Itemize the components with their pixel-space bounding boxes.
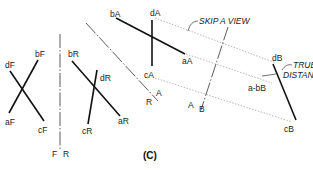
label-aA: aA [182,56,193,66]
label-bR: bR [68,49,79,59]
label-dA: dA [150,8,161,18]
label-fold-RA-R: R [146,97,152,107]
label-aR: aR [118,116,129,126]
descriptive-geometry-diagram: dF bF aF cF F R bR dR cR aR A R bA dA cA… [0,0,313,175]
projection-lines [155,18,292,122]
true-distance-dimension [262,74,276,76]
note-skip-a-view: SKIP A VIEW [199,16,251,26]
line-dR-cR [88,70,97,124]
label-cB: cB [284,124,294,134]
fold-line-AB: A B [188,27,228,114]
line-bR-aR [72,61,120,116]
auxiliary-view-A: bA dA cA aA [110,8,193,80]
annotations: SKIP A VIEW TRUE DISTANCE [188,16,313,80]
label-cR: cR [82,126,92,136]
label-fold-F: F [52,149,57,159]
right-view: bR dR cR aR [68,49,129,136]
label-bF: bF [35,49,45,59]
label-aF: aF [5,117,15,127]
skip-a-view-leader [188,21,198,31]
label-a-bB: a-bB [248,83,266,93]
fold-line-FR: F R [52,34,69,159]
label-fold-AB-A: A [188,100,194,110]
note-distance: DISTANCE [283,70,313,80]
note-true: TRUE [293,60,313,70]
label-bA: bA [110,9,121,19]
label-dR: dR [100,73,111,83]
figure-caption: (C) [143,150,157,161]
label-fold-RA-A: A [156,88,162,98]
label-fold-AB-B: B [199,104,205,114]
projector-ab [186,54,272,83]
label-dB: dB [272,53,283,63]
front-view: dF bF aF cF [5,49,47,135]
label-cA: cA [144,70,154,80]
line-bA-aA [116,18,185,54]
projector-c [155,78,292,122]
label-fold-R: R [63,149,69,159]
label-dF: dF [5,60,15,70]
label-cF: cF [38,125,47,135]
